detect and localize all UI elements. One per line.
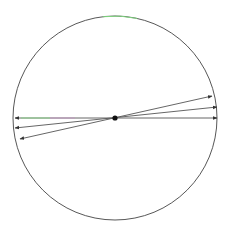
circle-diagram: [0, 0, 226, 230]
diagram-canvas: [0, 0, 226, 230]
top-highlight-arc: [103, 16, 137, 18]
center-point: [112, 115, 117, 120]
